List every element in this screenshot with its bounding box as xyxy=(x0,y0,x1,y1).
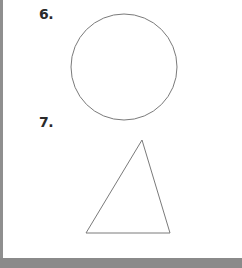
triangle-figure xyxy=(86,140,170,233)
circle-figure xyxy=(71,14,177,120)
figures-canvas xyxy=(0,0,242,268)
page-bottom-bar xyxy=(0,258,242,268)
